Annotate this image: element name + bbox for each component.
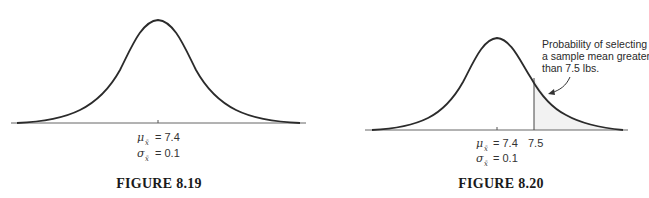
mean-label: μ x̄ = 7.4 xyxy=(476,137,518,153)
figure-8-19-chart: μ x̄ = 7.4 σ x̄ = 0.1 Probability of sel… xyxy=(0,0,649,198)
svg-text:x̄: x̄ xyxy=(484,160,488,168)
normal-curve xyxy=(17,20,300,123)
svg-text:μ: μ xyxy=(137,131,144,144)
svg-text:a sample mean greater: a sample mean greater xyxy=(542,50,649,62)
svg-text:Probability of selecting: Probability of selecting xyxy=(542,38,647,50)
svg-text:x̄: x̄ xyxy=(484,145,488,153)
svg-text:than 7.5 lbs.: than 7.5 lbs. xyxy=(542,62,599,74)
svg-text:= 0.1: = 0.1 xyxy=(155,147,180,159)
sd-label: σ x̄ = 0.1 xyxy=(137,147,180,163)
svg-text:= 0.1: = 0.1 xyxy=(493,152,518,164)
arrow-head-icon xyxy=(548,89,555,95)
svg-text:x̄: x̄ xyxy=(145,139,149,147)
shaded-tail-region xyxy=(534,78,623,130)
svg-text:σ: σ xyxy=(137,147,145,160)
svg-text:= 7.4: = 7.4 xyxy=(493,137,518,149)
figure-8-20-caption: FIGURE 8.20 xyxy=(458,176,544,192)
mean-label: μ x̄ = 7.4 xyxy=(137,131,180,147)
svg-text:x̄: x̄ xyxy=(145,155,149,163)
svg-text:σ: σ xyxy=(476,152,484,165)
svg-text:μ: μ xyxy=(476,137,483,150)
figure-8-19-caption: FIGURE 8.19 xyxy=(116,176,202,192)
cutoff-tick-label: 7.5 xyxy=(528,137,543,149)
annotation-text: Probability of selecting a sample mean g… xyxy=(542,38,649,74)
sd-label: σ x̄ = 0.1 xyxy=(476,152,518,168)
figure-8-20-chart: Probability of selecting a sample mean g… xyxy=(365,38,649,168)
svg-text:= 7.4: = 7.4 xyxy=(155,131,180,143)
